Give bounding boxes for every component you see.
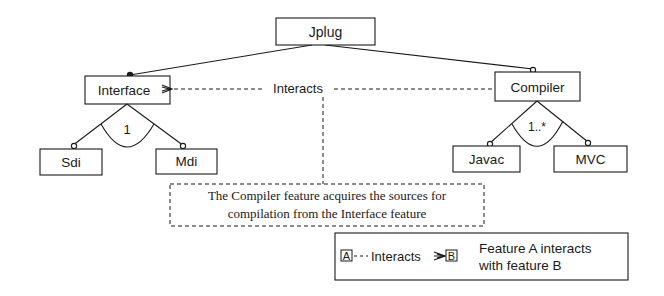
group-cardinality: 1..* bbox=[528, 120, 546, 134]
group-edge-mdi bbox=[127, 104, 184, 146]
feature-label: MVC bbox=[576, 152, 606, 167]
feature-node-compiler[interactable]: Compiler bbox=[495, 72, 580, 101]
feature-node-javac[interactable]: Javac bbox=[453, 146, 520, 172]
feature-node-jplug[interactable]: Jplug bbox=[276, 18, 375, 45]
legend-description-line-2: with feature B bbox=[478, 258, 562, 273]
interacts-label: Interacts bbox=[273, 81, 323, 96]
edge-root-compiler bbox=[325, 45, 533, 69]
feature-label: Jplug bbox=[309, 24, 342, 40]
feature-node-sdi[interactable]: Sdi bbox=[40, 149, 102, 175]
optional-circle-icon bbox=[180, 143, 185, 148]
feature-label: Sdi bbox=[61, 155, 81, 170]
note-line-2: compilation from the Interface feature bbox=[228, 206, 427, 221]
note-box: The Compiler feature acquires the source… bbox=[170, 184, 484, 226]
feature-label: Mdi bbox=[176, 154, 198, 169]
feature-diagram: Jplug Interface Compiler Interacts 1 Sdi… bbox=[0, 0, 664, 296]
group-edge-sdi bbox=[72, 104, 127, 146]
legend-relation-label: Interacts bbox=[371, 249, 421, 264]
feature-node-mvc[interactable]: MVC bbox=[554, 146, 627, 172]
group-cardinality: 1 bbox=[123, 122, 130, 137]
optional-circle-icon bbox=[71, 143, 76, 148]
feature-node-interface[interactable]: Interface bbox=[85, 76, 170, 104]
legend-box-b-label: B bbox=[448, 250, 455, 262]
feature-label: Compiler bbox=[510, 80, 565, 95]
note-line-1: The Compiler feature acquires the source… bbox=[208, 188, 447, 203]
legend-description-line-1: Feature A interacts bbox=[479, 241, 592, 256]
feature-node-mdi[interactable]: Mdi bbox=[156, 149, 217, 174]
feature-label: Javac bbox=[469, 152, 505, 167]
edge-root-interface bbox=[130, 45, 312, 75]
legend: A Interacts B Feature A interacts with f… bbox=[335, 233, 628, 280]
feature-label: Interface bbox=[98, 83, 151, 98]
optional-circle-icon bbox=[585, 140, 590, 145]
legend-box-a-label: A bbox=[343, 250, 351, 262]
